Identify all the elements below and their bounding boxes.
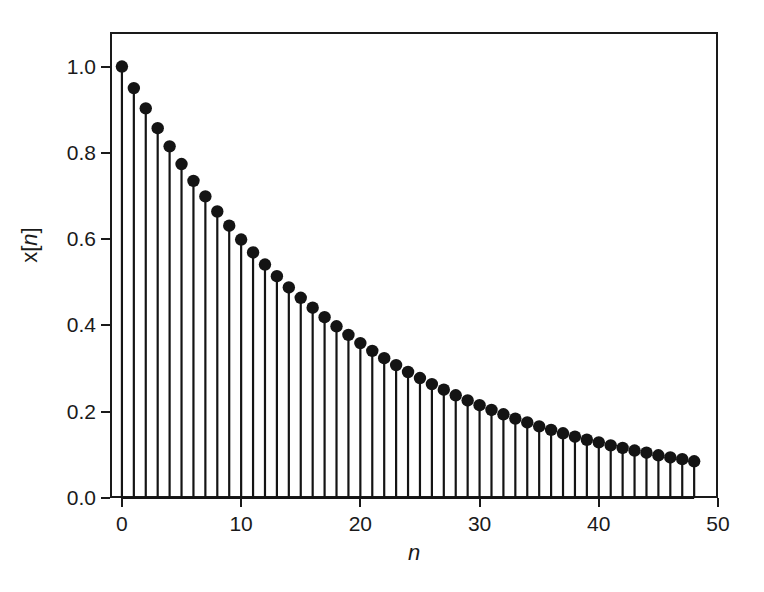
stem-marker xyxy=(509,412,521,424)
y-tick-mark xyxy=(101,324,110,326)
stem-marker xyxy=(128,82,140,94)
x-axis-label: n xyxy=(110,540,718,566)
stem-marker xyxy=(354,337,366,349)
stem-marker xyxy=(473,399,485,411)
stem-marker xyxy=(223,220,235,232)
stem-marker xyxy=(652,449,664,461)
y-tick-label: 0.0 xyxy=(67,485,96,510)
y-tick-label: 0.8 xyxy=(67,140,96,165)
x-tick-mark xyxy=(240,498,242,507)
stem-marker xyxy=(378,352,390,364)
stem-marker xyxy=(175,158,187,170)
stem-marker xyxy=(593,436,605,448)
stem-marker xyxy=(366,345,378,357)
stem-marker xyxy=(259,258,271,270)
y-axis-label-prefix: x[ xyxy=(17,246,42,263)
stem-lines xyxy=(122,67,694,498)
stem-marker xyxy=(485,404,497,416)
x-tick-label: 10 xyxy=(229,511,252,536)
x-tick-mark xyxy=(598,498,600,507)
stem-marker xyxy=(402,366,414,378)
stem-marker xyxy=(616,442,628,454)
stem-marker xyxy=(450,389,462,401)
stem-marker xyxy=(306,302,318,314)
stem-marker xyxy=(342,329,354,341)
y-tick-mark xyxy=(101,238,110,240)
x-tick-label: 0 xyxy=(116,511,128,536)
x-tick-mark xyxy=(359,498,361,507)
stem-marker xyxy=(211,205,223,217)
y-axis: 0.00.20.40.60.81.0 xyxy=(0,32,110,498)
stem-marker xyxy=(151,122,163,134)
stem-marker xyxy=(461,394,473,406)
stem-marker xyxy=(318,311,330,323)
y-tick-label: 0.4 xyxy=(67,312,96,337)
x-tick-mark xyxy=(121,498,123,507)
stem-marker xyxy=(199,190,211,202)
stem-marker xyxy=(163,140,175,152)
figure-stem-plot: 0.00.20.40.60.81.0 01020304050 x[n] n xyxy=(0,0,764,592)
stem-marker xyxy=(533,420,545,432)
stem-marker xyxy=(140,102,152,114)
stem-marker xyxy=(605,439,617,451)
y-axis-label-suffix: ] xyxy=(17,227,42,233)
x-tick-label: 40 xyxy=(587,511,610,536)
stem-marker xyxy=(414,372,426,384)
y-tick-label: 0.2 xyxy=(67,399,96,424)
stem-marker xyxy=(438,383,450,395)
stem-marker xyxy=(426,378,438,390)
x-tick-mark xyxy=(479,498,481,507)
x-tick-mark xyxy=(717,498,719,507)
y-tick-mark xyxy=(101,152,110,154)
stem-marker xyxy=(247,246,259,258)
stem-marker xyxy=(628,444,640,456)
stem-series xyxy=(110,32,718,498)
y-tick-label: 1.0 xyxy=(67,54,96,79)
stem-marker xyxy=(295,292,307,304)
stem-marker xyxy=(545,424,557,436)
stem-marker xyxy=(640,446,652,458)
stem-marker xyxy=(676,453,688,465)
y-axis-label: x[n] xyxy=(17,225,43,265)
y-tick-mark xyxy=(101,411,110,413)
stem-marker xyxy=(390,359,402,371)
stem-marker xyxy=(330,320,342,332)
x-tick-label: 30 xyxy=(468,511,491,536)
x-tick-label: 20 xyxy=(349,511,372,536)
y-tick-mark xyxy=(101,497,110,499)
y-tick-mark xyxy=(101,66,110,68)
stem-marker xyxy=(557,427,569,439)
stem-marker xyxy=(116,60,128,72)
stem-marker xyxy=(521,416,533,428)
stem-marker xyxy=(581,434,593,446)
stem-marker xyxy=(664,451,676,463)
x-tick-label: 50 xyxy=(706,511,729,536)
stem-marker xyxy=(283,281,295,293)
stem-marker xyxy=(569,431,581,443)
y-axis-label-variable: n xyxy=(17,233,42,245)
stem-marker xyxy=(235,233,247,245)
stem-marker xyxy=(271,270,283,282)
stem-marker xyxy=(497,408,509,420)
stem-marker xyxy=(688,455,700,467)
y-tick-label: 0.6 xyxy=(67,226,96,251)
stem-marker xyxy=(187,175,199,187)
